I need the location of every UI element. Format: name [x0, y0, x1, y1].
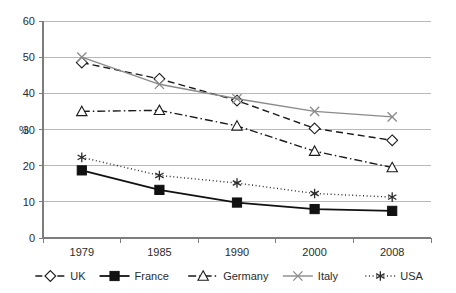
series-france [77, 166, 397, 216]
legend-label-uk: UK [70, 270, 86, 282]
y-axis-title: % [19, 124, 29, 136]
legend-label-usa: USA [400, 270, 423, 282]
xtick-label-2008: 2008 [380, 246, 404, 258]
ytick-label: 60 [23, 15, 35, 27]
marker-square [232, 198, 241, 207]
series-line-germany [82, 110, 392, 167]
ytick-label: 50 [23, 51, 35, 63]
legend-item-italy[interactable]: Italy [283, 270, 339, 282]
xtick-label-1979: 1979 [70, 246, 94, 258]
legend-item-france[interactable]: France [100, 270, 169, 282]
marker-diamond [387, 135, 398, 146]
ytick-label: 40 [23, 87, 35, 99]
legend-label-germany: Germany [223, 270, 269, 282]
marker-diamond [309, 123, 320, 134]
marker-square [110, 271, 119, 280]
marker-square [155, 185, 164, 194]
legend-label-italy: Italy [318, 270, 339, 282]
marker-square [310, 204, 319, 213]
marker-diamond [232, 95, 243, 106]
series-line-italy [82, 57, 392, 117]
marker-asterisk [155, 171, 163, 181]
legend-item-uk[interactable]: UK [35, 270, 86, 282]
marker-asterisk [376, 271, 384, 281]
marker-diamond [45, 271, 56, 282]
marker-asterisk [78, 153, 86, 163]
xtick-label-1990: 1990 [225, 246, 249, 258]
marker-asterisk [388, 192, 396, 202]
series-usa [78, 153, 397, 202]
series-uk [76, 57, 397, 146]
legend-label-france: France [135, 270, 169, 282]
xtick-label-1985: 1985 [147, 246, 171, 258]
legend-item-germany[interactable]: Germany [188, 270, 269, 282]
xtick-label-2000: 2000 [302, 246, 326, 258]
line-chart: 0102030405060%19791985199020002008UKFran… [0, 0, 456, 293]
marker-triangle [232, 121, 242, 130]
ytick-label: 20 [23, 160, 35, 172]
legend-item-usa[interactable]: USA [365, 270, 423, 282]
series-germany [77, 105, 398, 172]
ytick-label: 10 [23, 196, 35, 208]
chart-canvas: 0102030405060%19791985199020002008UKFran… [0, 0, 456, 293]
marker-square [388, 206, 397, 215]
marker-asterisk [310, 189, 318, 199]
series-line-usa [82, 157, 392, 197]
ytick-label: 0 [29, 232, 35, 244]
marker-square [77, 166, 86, 175]
marker-asterisk [233, 178, 241, 188]
